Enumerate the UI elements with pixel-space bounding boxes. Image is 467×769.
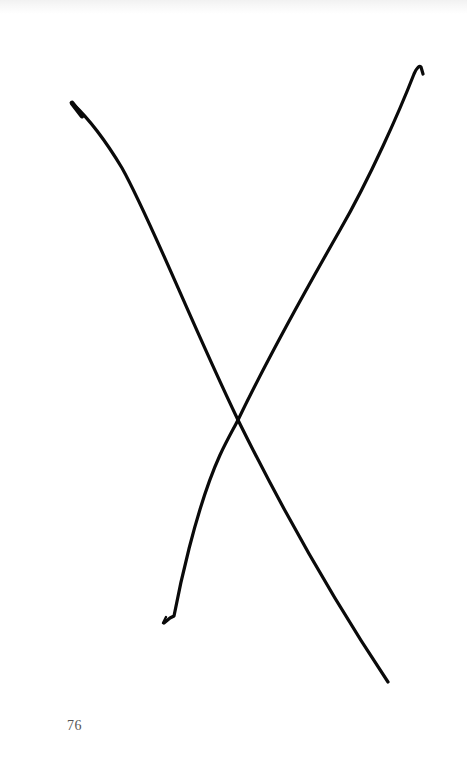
page-number: 76 [67, 718, 82, 734]
hand-drawn-x-illustration [0, 0, 467, 769]
descending-stroke [73, 104, 388, 682]
book-page: 76 [0, 0, 467, 769]
